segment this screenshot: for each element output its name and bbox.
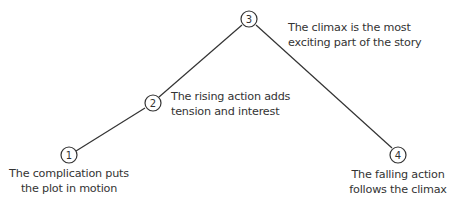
stage-4-number: 4 — [395, 150, 401, 161]
stage-3-marker: 3 — [241, 11, 257, 27]
stage-2-marker: 2 — [145, 95, 161, 111]
stage-4-label: The falling action follows the climax — [349, 167, 446, 197]
stage-2-number: 2 — [150, 98, 156, 109]
stage-3-label-line-2: exciting part of the story — [288, 35, 421, 50]
connector-2-3 — [159, 25, 242, 97]
stage-1-number: 1 — [66, 150, 72, 161]
stage-1-marker: 1 — [61, 147, 77, 163]
stage-4-marker: 4 — [390, 147, 406, 163]
stage-3-label: The climax is the most exciting part of … — [288, 20, 421, 50]
stage-2-label: The rising action adds tension and inter… — [171, 89, 290, 119]
stage-3-label-line-1: The climax is the most — [288, 20, 421, 35]
stage-4-label-line-1: The falling action — [349, 167, 446, 182]
plot-diagram: 1 2 3 4 The complication puts the plot i… — [0, 0, 466, 208]
stage-3-number: 3 — [246, 14, 252, 25]
stage-1-label-line-1: The complication puts — [9, 166, 129, 181]
stage-2-label-line-2: tension and interest — [171, 104, 290, 119]
stage-1-label: The complication puts the plot in motion — [9, 166, 129, 196]
stage-4-label-line-2: follows the climax — [349, 182, 446, 197]
stage-2-label-line-1: The rising action adds — [171, 89, 290, 104]
connector-1-2 — [76, 108, 145, 151]
stage-1-label-line-2: the plot in motion — [9, 181, 129, 196]
